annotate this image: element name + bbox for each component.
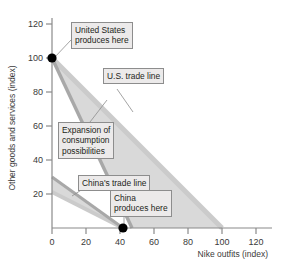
callout-expansion-of-consumption: Expansion of consumption possibilities — [58, 122, 114, 159]
callout-china-trade-line: China's trade line — [78, 175, 150, 191]
y-tick-label: 120 — [28, 19, 43, 29]
y-tick-label: 60 — [33, 121, 43, 131]
leader-us-produces — [54, 40, 71, 58]
x-tick-label: 60 — [149, 237, 159, 247]
callout-us-produces: United States produces here — [71, 22, 133, 49]
china-production-point — [118, 223, 127, 232]
x-tick-labels: 0 20 40 60 80 100 120 — [49, 237, 263, 247]
x-tick-label: 20 — [81, 237, 91, 247]
us-production-point — [47, 53, 56, 62]
y-axis-title: Other goods and services (index) — [7, 65, 17, 190]
x-tick-label: 80 — [183, 237, 193, 247]
x-tick-label: 0 — [49, 237, 54, 247]
figure-container: 120 100 80 60 40 20 0 20 40 60 80 100 12… — [0, 0, 281, 265]
callout-us-trade-line: U.S. trade line — [103, 68, 164, 84]
x-axis-ticks — [52, 228, 256, 234]
x-tick-label: 120 — [248, 237, 263, 247]
leader-us-trade — [117, 89, 133, 112]
x-tick-label: 40 — [115, 237, 125, 247]
ppf-trade-chart: 120 100 80 60 40 20 0 20 40 60 80 100 12… — [0, 0, 281, 265]
callout-china-produces: China produces here — [110, 190, 172, 217]
y-tick-label: 20 — [33, 189, 43, 199]
x-axis-title: Nike outfits (index) — [198, 249, 269, 259]
x-tick-label: 100 — [214, 237, 229, 247]
y-tick-label: 40 — [33, 155, 43, 165]
y-axis-ticks — [46, 24, 52, 194]
y-tick-label: 80 — [33, 87, 43, 97]
y-tick-labels: 120 100 80 60 40 20 — [28, 19, 43, 199]
y-tick-label: 100 — [28, 53, 43, 63]
